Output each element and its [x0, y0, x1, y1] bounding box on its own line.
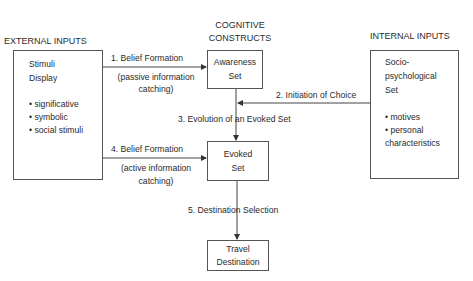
- arrow4-label: 4. Belief Formation: [111, 143, 183, 155]
- arrow1-sub2: catching): [106, 83, 206, 95]
- socio-title-line3: Set: [385, 84, 398, 97]
- socio-psychological-set-box: Socio- psychological Set • motives • per…: [370, 50, 459, 179]
- socio-title-line2: psychological: [385, 70, 437, 83]
- socio-title-line1: Socio-: [385, 56, 409, 69]
- arrow1-sub1: (passive information: [106, 71, 206, 83]
- socio-item: • personal: [385, 124, 423, 137]
- stimuli-display-box: Stimuli Display • significative • symbol…: [13, 50, 103, 180]
- stimuli-item: • symbolic: [29, 111, 68, 124]
- travel-line2: Destination: [208, 256, 268, 269]
- stimuli-item: • significative: [29, 98, 79, 111]
- stimuli-item: • social stimuli: [29, 124, 83, 137]
- evoked-set-box: Evoked Set: [207, 141, 269, 181]
- arrow4-sub2: catching): [106, 175, 206, 187]
- socio-item: characteristics: [385, 137, 440, 150]
- stimuli-title-line2: Display: [29, 72, 57, 85]
- evoked-line1: Evoked: [208, 148, 268, 161]
- arrow2-label: 2. Initiation of Choice: [276, 89, 356, 101]
- awareness-line1: Awareness: [208, 56, 262, 69]
- arrow4-sub1: (active information: [106, 162, 206, 174]
- arrow1-label: 1. Belief Formation: [111, 52, 183, 64]
- travel-destination-box: Travel Destination: [207, 240, 269, 271]
- evoked-line2: Set: [208, 162, 268, 175]
- travel-line1: Travel: [208, 243, 268, 256]
- arrow3-label: 3. Evolution of an Evoked Set: [178, 113, 291, 125]
- socio-item: • motives: [385, 111, 420, 124]
- stimuli-title-line1: Stimuli: [29, 58, 55, 71]
- arrow5-label: 5. Destination Selection: [188, 204, 278, 216]
- awareness-line2: Set: [208, 70, 262, 83]
- awareness-set-box: Awareness Set: [207, 50, 263, 89]
